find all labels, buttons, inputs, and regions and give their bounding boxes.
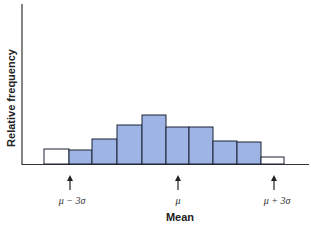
histogram-bar — [237, 142, 261, 164]
histogram-plot — [0, 0, 311, 226]
arrow-mu — [175, 175, 181, 190]
histogram-bar — [69, 150, 92, 164]
arrow-minus-3sigma — [67, 175, 73, 190]
y-axis-label-text: Relative frequency — [5, 49, 17, 147]
histogram-bar — [213, 141, 237, 164]
histogram-bar — [142, 115, 166, 164]
x-axis-label: Mean — [166, 211, 194, 223]
label-mu-minus-3sigma: μ − 3σ — [59, 195, 86, 206]
histogram-bar — [166, 127, 189, 164]
y-axis-label: Relative frequency — [4, 40, 18, 156]
arrow-plus-3sigma — [271, 175, 277, 190]
histogram-bar — [44, 149, 69, 164]
label-mu-plus-3sigma: μ + 3σ — [264, 195, 291, 206]
histogram-bar — [117, 125, 142, 164]
label-mu: μ — [175, 195, 180, 206]
bars — [44, 115, 284, 164]
histogram-bar — [261, 157, 284, 164]
histogram-bar — [189, 127, 213, 164]
histogram-bar — [92, 139, 117, 164]
